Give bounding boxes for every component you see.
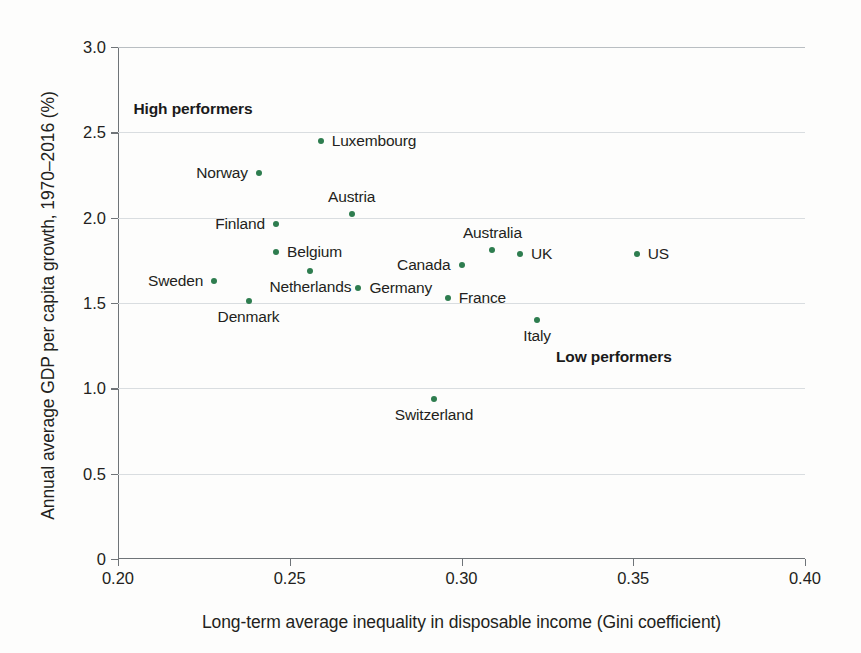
gridline	[118, 388, 805, 389]
data-point-label: Netherlands	[269, 278, 351, 296]
data-point-label: Finland	[215, 215, 265, 233]
data-point[interactable]	[211, 278, 217, 284]
x-tick-mark	[118, 559, 119, 566]
y-tick-mark	[111, 388, 118, 389]
plot-area: 00.51.01.52.02.53.0 0.200.250.300.350.40…	[118, 47, 805, 559]
data-point-label: Switzerland	[395, 406, 473, 424]
y-tick-label: 1.5	[83, 294, 106, 313]
data-point-label: US	[648, 245, 669, 263]
data-point-label: Italy	[523, 327, 551, 345]
data-point[interactable]	[273, 249, 279, 255]
x-tick-mark	[805, 559, 806, 566]
data-point-label: Belgium	[287, 243, 342, 261]
data-point-label: Denmark	[218, 308, 280, 326]
gridline	[118, 47, 805, 48]
data-point-label: Canada	[397, 256, 450, 274]
x-tick-label: 0.30	[445, 569, 477, 588]
data-point[interactable]	[307, 268, 313, 274]
x-tick-mark	[462, 559, 463, 566]
y-tick-mark	[111, 559, 118, 560]
y-tick-mark	[111, 218, 118, 219]
data-point-label: Luxembourg	[332, 132, 417, 150]
data-point[interactable]	[634, 251, 640, 257]
data-point[interactable]	[517, 251, 523, 257]
data-point[interactable]	[318, 138, 324, 144]
y-axis-title: Annual average GDP per capita growth, 19…	[38, 36, 59, 576]
data-point-label: Australia	[463, 224, 522, 242]
y-tick-mark	[111, 132, 118, 133]
data-point[interactable]	[355, 285, 361, 291]
x-tick-label: 0.40	[789, 569, 821, 588]
data-point[interactable]	[349, 211, 355, 217]
y-tick-label: 1.0	[83, 379, 106, 398]
y-tick-label: 2.0	[83, 208, 106, 227]
y-tick-label: 0.5	[83, 464, 106, 483]
y-tick-mark	[111, 474, 118, 475]
annotation-high-performers: High performers	[133, 100, 252, 118]
data-point[interactable]	[459, 262, 465, 268]
x-axis-title: Long-term average inequality in disposab…	[118, 612, 805, 633]
y-tick-mark	[111, 47, 118, 48]
x-tick-label: 0.25	[274, 569, 306, 588]
data-point[interactable]	[445, 295, 451, 301]
data-point-label: Germany	[369, 279, 432, 297]
y-tick-label: 0	[97, 550, 106, 569]
data-point[interactable]	[489, 247, 495, 253]
gridline	[118, 474, 805, 475]
y-tick-label: 3.0	[83, 38, 106, 57]
data-point-label: Norway	[196, 164, 248, 182]
y-tick-label: 2.5	[83, 123, 106, 142]
chart-figure: Annual average GDP per capita growth, 19…	[0, 0, 861, 653]
data-point[interactable]	[534, 317, 540, 323]
x-tick-mark	[290, 559, 291, 566]
data-point-label: UK	[531, 245, 552, 263]
annotation-low-performers: Low performers	[556, 348, 672, 366]
data-point[interactable]	[273, 221, 279, 227]
x-tick-mark	[633, 559, 634, 566]
y-tick-mark	[111, 303, 118, 304]
data-point[interactable]	[246, 298, 252, 304]
x-tick-label: 0.20	[102, 569, 134, 588]
data-point[interactable]	[431, 396, 437, 402]
data-point-label: France	[459, 289, 506, 307]
data-point-label: Sweden	[148, 272, 203, 290]
data-point[interactable]	[256, 170, 262, 176]
x-tick-label: 0.35	[617, 569, 649, 588]
data-point-label: Austria	[328, 188, 375, 206]
gridline	[118, 132, 805, 133]
